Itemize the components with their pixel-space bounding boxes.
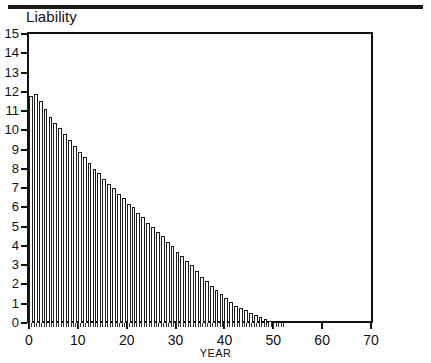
x-axis-minor-tick: [75, 323, 76, 327]
x-axis-minor-tick: [188, 323, 189, 327]
x-axis-minor-tick: [102, 323, 103, 327]
x-axis-minor-tick: [117, 323, 118, 327]
x-axis-tick: [370, 323, 372, 329]
x-axis-minor-tick: [283, 323, 284, 327]
x-axis-minor-tick: [149, 323, 150, 327]
x-axis-minor-tick: [58, 323, 59, 327]
bar: [73, 146, 77, 323]
bar: [171, 246, 175, 323]
x-axis-minor-tick: [41, 323, 42, 327]
y-axis-tick-label: 11: [1, 104, 19, 117]
bar: [127, 204, 131, 323]
bar: [29, 96, 33, 323]
x-axis-minor-tick: [122, 323, 123, 327]
x-axis-tick-label: 70: [351, 333, 391, 347]
x-axis-minor-tick: [73, 323, 74, 327]
x-axis-minor-tick: [256, 323, 257, 327]
x-axis-minor-tick: [273, 323, 274, 327]
x-axis-minor-tick: [144, 323, 145, 327]
x-axis-minor-tick: [220, 323, 221, 327]
x-axis-minor-tick: [259, 323, 260, 327]
x-axis-minor-tick: [112, 323, 113, 327]
bar: [49, 117, 53, 323]
bar: [244, 310, 248, 323]
bar: [224, 298, 228, 323]
x-axis-minor-tick: [185, 323, 186, 327]
x-axis-minor-tick: [193, 323, 194, 327]
x-axis-tick-label: 0: [9, 333, 49, 347]
x-axis-tick: [321, 323, 323, 329]
x-axis-minor-tick: [217, 323, 218, 327]
y-axis-tick-label: 5: [1, 220, 19, 233]
x-axis-minor-tick: [154, 323, 155, 327]
bar: [93, 169, 97, 323]
x-axis-minor-tick: [95, 323, 96, 327]
y-axis-tick: [21, 91, 27, 93]
x-axis-minor-tick: [166, 323, 167, 327]
x-axis-minor-tick: [49, 323, 50, 327]
x-axis-tick-label: 30: [156, 333, 196, 347]
x-axis-minor-tick: [46, 323, 47, 327]
x-axis-minor-tick: [107, 323, 108, 327]
x-axis-minor-tick: [34, 323, 35, 327]
bar: [83, 157, 87, 323]
bar: [132, 207, 136, 323]
y-axis-title: Liability: [26, 9, 77, 24]
x-axis-minor-tick: [51, 323, 52, 327]
x-axis-minor-tick: [212, 323, 213, 327]
bar: [88, 163, 92, 323]
x-axis-minor-tick: [215, 323, 216, 327]
x-axis-minor-tick: [146, 323, 147, 327]
y-axis-tick-label: 10: [1, 123, 19, 136]
x-axis-minor-tick: [29, 323, 30, 327]
y-axis-tick: [21, 245, 27, 247]
x-axis-minor-tick: [36, 323, 37, 327]
bar: [112, 188, 116, 323]
y-axis-tick: [21, 303, 27, 305]
x-axis-minor-tick: [242, 323, 243, 327]
x-axis-minor-tick: [61, 323, 62, 327]
y-axis-tick: [21, 110, 27, 112]
y-axis-tick: [21, 187, 27, 189]
bar: [210, 286, 214, 323]
x-axis-minor-tick: [129, 323, 130, 327]
x-axis-minor-tick: [190, 323, 191, 327]
x-axis-minor-tick: [39, 323, 40, 327]
x-axis-minor-tick: [136, 323, 137, 327]
bar: [190, 265, 194, 323]
bar: [229, 302, 233, 323]
bar: [239, 308, 243, 323]
x-axis-minor-tick: [183, 323, 184, 327]
x-axis-minor-tick: [244, 323, 245, 327]
bar: [107, 184, 111, 323]
y-axis-tick-label: 13: [1, 66, 19, 79]
y-axis-tick-label: 3: [1, 258, 19, 271]
x-axis-minor-tick: [249, 323, 250, 327]
y-axis-tick: [21, 168, 27, 170]
x-axis-minor-tick: [100, 323, 101, 327]
x-axis-minor-tick: [141, 323, 142, 327]
x-axis-minor-tick: [71, 323, 72, 327]
bar: [166, 242, 170, 323]
bar: [97, 173, 101, 323]
bar: [78, 152, 82, 323]
x-axis-minor-tick: [205, 323, 206, 327]
x-axis-tick-label: 40: [204, 333, 244, 347]
x-axis-tick-label: 20: [107, 333, 147, 347]
x-axis-minor-tick: [93, 323, 94, 327]
bar: [176, 252, 180, 323]
bar: [58, 128, 62, 323]
x-axis-minor-tick: [266, 323, 267, 327]
y-axis-tick: [21, 72, 27, 74]
x-axis-minor-tick: [110, 323, 111, 327]
x-axis-minor-tick: [232, 323, 233, 327]
x-axis-minor-tick: [227, 323, 228, 327]
bar: [180, 256, 184, 323]
bar: [63, 134, 67, 323]
y-axis-tick: [21, 33, 27, 35]
x-axis-minor-tick: [88, 323, 89, 327]
x-axis-minor-tick: [200, 323, 201, 327]
x-axis-minor-tick: [173, 323, 174, 327]
x-axis-minor-tick: [168, 323, 169, 327]
x-axis-minor-tick: [171, 323, 172, 327]
